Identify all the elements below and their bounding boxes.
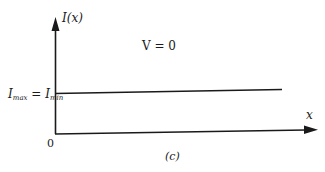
x-axis — [55, 130, 306, 134]
figure-caption: (c) — [165, 151, 180, 162]
origin-label: 0 — [47, 138, 54, 149]
level-label-right-sub: min — [50, 94, 63, 102]
y-axis-arrow-icon — [52, 17, 60, 31]
level-label-left-sub: max — [13, 94, 28, 102]
x-axis-arrow-icon — [304, 126, 318, 135]
x-axis-label: x — [306, 109, 313, 121]
level-label: Imax = Imin — [8, 88, 63, 102]
current-level-line — [55, 90, 282, 94]
level-label-equals: = — [28, 87, 46, 101]
condition-label: V = 0 — [142, 40, 176, 52]
y-axis-label: I(x) — [62, 12, 83, 24]
